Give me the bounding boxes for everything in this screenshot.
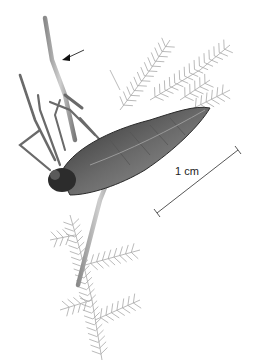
plant-leaflet <box>185 97 194 101</box>
plant-leaflet <box>114 257 121 263</box>
plant-leaflet <box>97 262 104 268</box>
plant-leaflet <box>111 313 119 318</box>
plant-leaflet <box>222 85 223 94</box>
plant-leaflet <box>160 93 169 97</box>
plant-leaflet <box>102 260 109 266</box>
plant-leaflet <box>79 296 86 302</box>
plant-leaflet <box>114 248 117 257</box>
aquatic-plant <box>50 38 233 360</box>
plant-leaflet <box>72 305 74 314</box>
plant-leaflet <box>99 342 106 349</box>
plant-leaflet <box>100 318 108 323</box>
plant-leaflet <box>137 86 146 87</box>
arrow-annotation <box>62 50 84 61</box>
plant-leaflet <box>219 52 228 56</box>
plant-leaflet <box>144 62 148 71</box>
plant-leaflet <box>98 336 105 343</box>
plant-leaflet <box>79 292 88 295</box>
arrowhead-icon <box>62 54 70 61</box>
plant-leaflet <box>217 97 225 102</box>
plant-leaflet <box>73 297 80 303</box>
plant-leaflet <box>141 81 150 82</box>
plant-leaflet <box>144 76 153 77</box>
plant-leaflet <box>63 222 72 225</box>
plant-leaflet <box>86 283 93 290</box>
plant-leaflet <box>87 328 96 331</box>
plant-leaflet <box>128 305 136 310</box>
plant-leaflet <box>92 307 99 314</box>
plant-leaflet <box>120 256 127 262</box>
plant-leaflet <box>88 333 97 336</box>
plant-leaflet <box>134 77 138 86</box>
plant-leaflet <box>108 250 111 259</box>
plant-leaflet <box>131 252 138 258</box>
plant-leaflet <box>91 263 98 269</box>
plant-leaflet <box>108 259 115 265</box>
plant-leaflet <box>90 301 97 308</box>
plant-leaflet <box>201 95 202 104</box>
plant-leaflet <box>122 298 123 307</box>
plant-leaflet <box>158 43 162 52</box>
plant-leaflet <box>165 90 174 94</box>
plant-leaflet <box>224 49 233 53</box>
plant-leaflet <box>170 86 179 90</box>
plant-leaflet <box>88 289 95 296</box>
plant-leaflet <box>67 307 69 316</box>
plant-leaflet <box>155 48 159 57</box>
plant-leaflet <box>122 308 130 313</box>
plant-leaflet <box>151 66 160 67</box>
plant-leaflet <box>134 90 143 91</box>
plant-leaflet <box>84 302 86 311</box>
plant-leaflet <box>211 99 219 104</box>
plant-leaflets <box>51 38 233 354</box>
plant-leaflet <box>190 93 199 97</box>
plant-leaflet <box>127 100 136 101</box>
plant-leaflet <box>200 87 209 91</box>
plant-leaflet <box>85 277 92 284</box>
plant-leaflet <box>155 97 164 101</box>
plant-leaflet <box>91 254 94 263</box>
plant-leaflet <box>214 56 223 60</box>
plant-leaflet <box>51 232 57 239</box>
plant-leaflet <box>62 301 69 307</box>
plant-leaflet <box>130 82 134 91</box>
scale-bar <box>154 146 241 217</box>
plant-leaflet <box>141 67 145 76</box>
plant-leaflet <box>120 96 124 105</box>
plant-leaflet <box>92 351 101 354</box>
plant-leaflet <box>57 230 63 237</box>
plant-leaflet <box>106 315 114 320</box>
plant-leaflet <box>133 303 141 308</box>
plant-leaflet <box>84 271 91 278</box>
plant-leaflet <box>162 38 166 47</box>
plant-leaflet <box>158 56 167 57</box>
plant-leaflet <box>206 93 207 102</box>
plant-leaflet <box>195 90 204 94</box>
plant-leaflet <box>66 236 69 245</box>
plant-leaflet <box>151 52 155 61</box>
plant-leaflet <box>130 95 139 96</box>
plant-leaflet <box>74 224 81 231</box>
plant-leaflet <box>155 61 164 62</box>
plant-leaflet <box>65 228 74 231</box>
plant-leaflet <box>127 87 131 96</box>
plant-leaflet <box>69 246 78 249</box>
plant-leaflet <box>71 257 80 260</box>
plant-leaflet <box>68 299 75 305</box>
plant-leaflet <box>217 87 218 96</box>
plant-leaflet <box>54 239 57 248</box>
plant-leaflet <box>89 339 98 342</box>
plant-leaflet <box>205 83 214 87</box>
plant-leaflet <box>97 253 100 262</box>
plant-leaflet <box>117 301 118 310</box>
plant-leaflet <box>222 94 230 99</box>
plant-leaflet <box>102 251 105 260</box>
plant-leaflet <box>67 240 76 243</box>
plant-leaflet <box>137 72 141 81</box>
plant-leaflet <box>106 306 107 315</box>
plant-leaflet <box>195 98 196 107</box>
plant-leaflet <box>165 47 174 48</box>
plant-leaflet <box>211 90 212 99</box>
plant-leaflet <box>162 51 171 52</box>
insect-illustration: 1 cm <box>0 0 254 361</box>
